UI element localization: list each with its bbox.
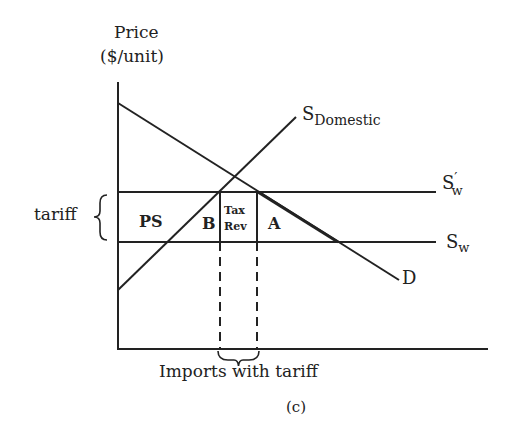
- region-ps-label: PS: [139, 212, 163, 231]
- x-axis-label: Imports with tariff: [159, 361, 320, 381]
- tariff-diagram: Price ($/unit) Imports with tariff (c) t…: [0, 0, 505, 441]
- region-b-label: B: [202, 214, 216, 233]
- tariff-brace: [94, 195, 107, 240]
- domestic-supply-label: SDomestic: [302, 103, 381, 128]
- world-supply-label: Sw: [446, 231, 469, 255]
- demand-label: D: [402, 267, 416, 288]
- figure-caption: (c): [286, 398, 306, 416]
- world-supply-tariff-label: S′w: [442, 170, 463, 198]
- region-taxrev-label-line1: Tax: [224, 204, 245, 217]
- tariff-label: tariff: [34, 204, 79, 224]
- region-taxrev-label-line2: Rev: [224, 220, 247, 233]
- y-axis-label-line2: ($/unit): [100, 46, 164, 66]
- domestic-supply-curve: [118, 117, 296, 290]
- region-a-label: A: [267, 214, 281, 233]
- y-axis-label-line1: Price: [114, 22, 159, 42]
